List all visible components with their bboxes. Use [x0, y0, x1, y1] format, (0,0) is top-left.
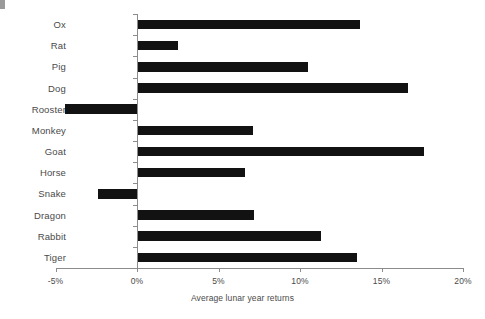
bar-row: Rat — [0, 35, 485, 56]
bar-rooster — [65, 104, 137, 114]
category-label-rooster: Rooster — [0, 99, 66, 120]
bar-tiger — [137, 253, 357, 263]
bar-goat — [137, 147, 424, 157]
bar-rat — [137, 41, 178, 51]
category-label-tiger: Tiger — [0, 247, 66, 268]
y-axis-minor-tick — [133, 78, 137, 79]
category-label-snake: Snake — [0, 183, 66, 204]
x-tick — [219, 268, 220, 272]
bar-rabbit — [137, 231, 321, 241]
x-tick-label: -5% — [36, 276, 76, 286]
category-label-rat: Rat — [0, 35, 66, 56]
x-tick — [463, 268, 464, 272]
bar-pig — [137, 62, 308, 72]
y-axis-minor-tick — [133, 14, 137, 15]
x-tick-label: 0% — [117, 276, 157, 286]
x-tick-label: 10% — [280, 276, 320, 286]
bar-row: Rooster — [0, 99, 485, 120]
bar-dragon — [137, 210, 254, 220]
category-label-ox: Ox — [0, 14, 66, 35]
bar-monkey — [137, 126, 253, 136]
bar-ox — [137, 20, 360, 30]
y-axis-minor-tick — [133, 141, 137, 142]
y-axis-minor-tick — [133, 56, 137, 57]
zero-baseline — [137, 14, 138, 268]
category-label-dragon: Dragon — [0, 205, 66, 226]
bar-row: Snake — [0, 183, 485, 204]
y-axis-minor-tick — [133, 120, 137, 121]
x-tick-label: 15% — [362, 276, 402, 286]
y-axis-minor-tick — [133, 99, 137, 100]
x-tick — [137, 268, 138, 272]
bar-chart: OxRatPigDogRoosterMonkeyGoatHorseSnakeDr… — [0, 0, 485, 319]
bar-row: Dog — [0, 78, 485, 99]
x-tick — [382, 268, 383, 272]
y-axis-minor-tick — [133, 226, 137, 227]
category-label-pig: Pig — [0, 56, 66, 77]
y-axis-minor-tick — [133, 183, 137, 184]
y-axis-minor-tick — [133, 205, 137, 206]
bar-horse — [137, 168, 245, 178]
y-axis-minor-tick — [133, 35, 137, 36]
bar-row: Horse — [0, 162, 485, 183]
category-label-dog: Dog — [0, 78, 66, 99]
bar-row: Monkey — [0, 120, 485, 141]
x-tick — [300, 268, 301, 272]
bar-row: Goat — [0, 141, 485, 162]
bar-dog — [137, 83, 408, 93]
y-axis-minor-tick — [133, 162, 137, 163]
bar-row: Pig — [0, 56, 485, 77]
category-label-rabbit: Rabbit — [0, 226, 66, 247]
x-tick — [56, 268, 57, 272]
plot-area: OxRatPigDogRoosterMonkeyGoatHorseSnakeDr… — [0, 14, 485, 268]
bar-snake — [98, 189, 137, 199]
x-axis-title: Average lunar year returns — [0, 293, 485, 303]
bar-row: Ox — [0, 14, 485, 35]
category-label-goat: Goat — [0, 141, 66, 162]
x-tick-label: 20% — [443, 276, 483, 286]
y-axis-minor-tick — [133, 247, 137, 248]
x-axis-line — [56, 268, 464, 269]
bar-row: Rabbit — [0, 226, 485, 247]
bar-row: Tiger — [0, 247, 485, 268]
bar-row: Dragon — [0, 205, 485, 226]
x-tick-label: 5% — [199, 276, 239, 286]
corner-crop-mark — [0, 0, 5, 9]
category-label-horse: Horse — [0, 162, 66, 183]
category-label-monkey: Monkey — [0, 120, 66, 141]
